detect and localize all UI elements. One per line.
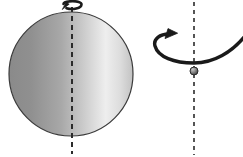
rotation-diagram-svg [0, 0, 243, 157]
small-shaded-sphere [190, 67, 198, 75]
figure-canvas [0, 0, 243, 157]
